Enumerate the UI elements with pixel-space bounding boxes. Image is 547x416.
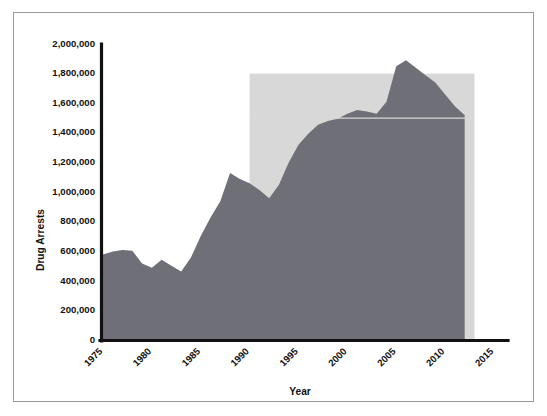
y-tick-label: 400,000 [60, 275, 95, 286]
chart-plot-area: 0200,000400,000600,000800,0001,000,0001,… [0, 0, 547, 416]
x-tick-label: 1985 [179, 345, 202, 368]
y-tick-label: 1,000,000 [52, 186, 95, 197]
x-tick-label: 1975 [82, 345, 105, 368]
x-tick-label: 2010 [424, 346, 447, 369]
y-tick-label: 800,000 [60, 215, 95, 226]
x-axis-title: Year [289, 386, 311, 397]
y-tick-label: 1,800,000 [52, 67, 95, 78]
y-tick-label: 1,200,000 [52, 156, 95, 167]
y-axis-title: Drug Arrests [35, 209, 46, 271]
x-tick-label: 2000 [326, 346, 349, 369]
area-chart: 0200,000400,000600,000800,0001,000,0001,… [0, 0, 547, 416]
x-axis-tick-labels: 197519801985199019952000200520102015 [82, 345, 496, 368]
y-tick-label: 2,000,000 [52, 38, 95, 49]
y-tick-label: 1,600,000 [52, 97, 95, 108]
x-tick-label: 1995 [277, 345, 300, 368]
x-tick-label: 2015 [473, 345, 496, 368]
figure-canvas: 0200,000400,000600,000800,0001,000,0001,… [0, 0, 547, 416]
y-tick-label: 0 [90, 334, 95, 345]
x-tick-label: 2005 [375, 345, 398, 368]
y-tick-label: 1,400,000 [52, 126, 95, 137]
y-tick-label: 600,000 [60, 245, 95, 256]
x-tick-label: 1980 [130, 346, 153, 369]
y-axis-tick-labels: 0200,000400,000600,000800,0001,000,0001,… [52, 38, 95, 346]
y-tick-label: 200,000 [60, 304, 95, 315]
x-tick-label: 1990 [228, 346, 251, 369]
